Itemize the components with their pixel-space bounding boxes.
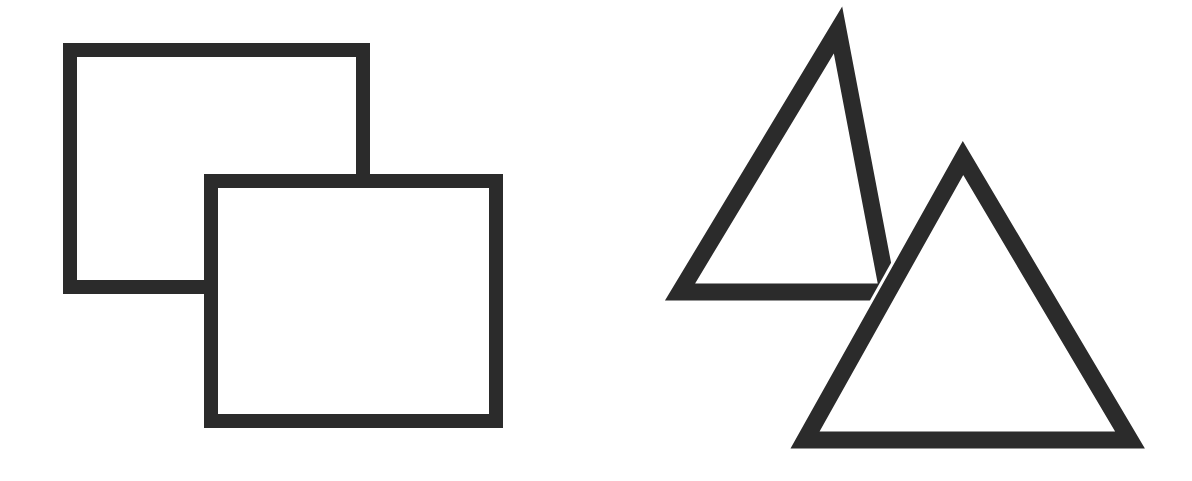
triangle-back-outline	[680, 30, 888, 292]
figure-canvas	[0, 0, 1192, 481]
square-front-outline	[211, 181, 496, 421]
triangle-back-group	[680, 30, 888, 292]
shapes-illustration	[0, 0, 1192, 481]
triangles-panel	[680, 30, 1130, 440]
squares-panel	[70, 50, 496, 421]
